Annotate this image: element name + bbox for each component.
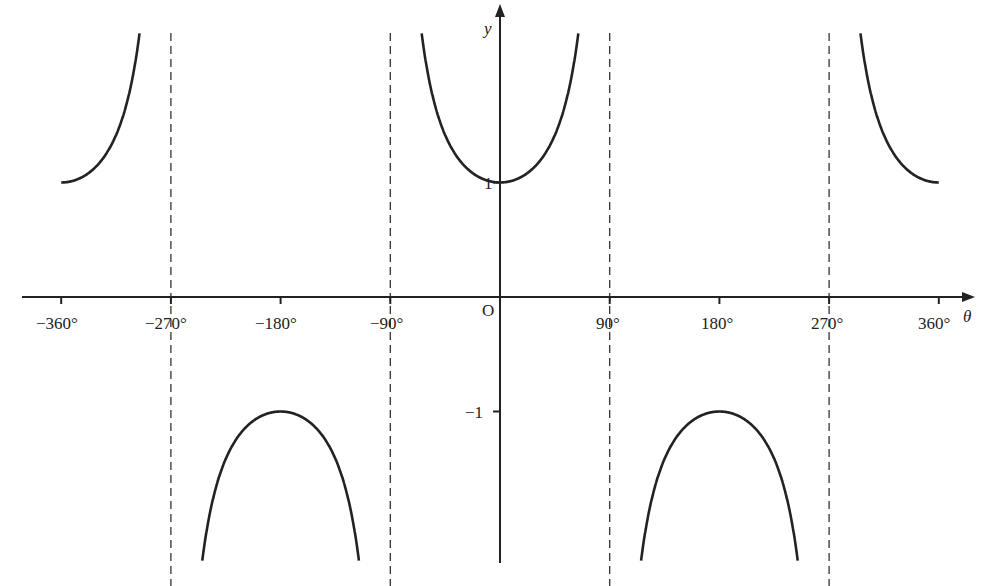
x-tick-label: 270° [811,315,843,332]
sec-graph [0,0,981,586]
y-tick-label-neg1: −1 [465,404,483,421]
sec-curve-branch [641,412,798,561]
y-axis-label: y [484,20,492,37]
x-axis-arrow-icon [962,292,975,302]
x-tick-label: 180° [701,315,733,332]
x-axis-label: θ [963,308,971,325]
x-tick-label: −360° [36,315,78,332]
sec-curve-branch [202,412,359,561]
sec-curve-branch [61,33,139,182]
x-tick-label: 90° [596,315,620,332]
y-axis-arrow-icon [495,4,505,17]
sec-curve-branch [861,33,939,182]
axes [22,14,968,563]
x-tick-label: −270° [145,315,187,332]
origin-label: O [482,302,494,319]
x-tick-label: −90° [370,315,403,332]
x-tick-label: −180° [255,315,297,332]
y-tick-label-1: 1 [484,175,493,192]
axis-arrows [495,4,975,302]
x-tick-label: 360° [918,315,950,332]
